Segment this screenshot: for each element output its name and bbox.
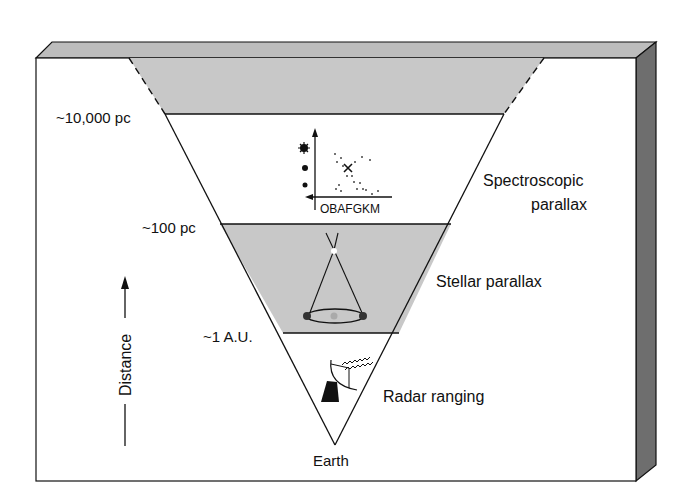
band-far [129, 58, 544, 114]
method-stellar-parallax: Stellar parallax [436, 273, 542, 290]
distance-axis-label: Distance [117, 334, 134, 396]
marker-100pc: ~100 pc [142, 219, 196, 236]
distance-ladder-diagram: ~10,000 pc ~100 pc ~1 A.U. Spectroscopic… [0, 0, 681, 497]
earth-label: Earth [313, 452, 349, 469]
marker-10000pc: ~10,000 pc [56, 109, 131, 126]
star-medium-icon [302, 165, 308, 171]
method-spectroscopic-line1: Spectroscopic [483, 172, 584, 189]
method-radar-ranging: Radar ranging [383, 388, 484, 405]
spectral-class-label: OBAFGKM [320, 202, 380, 216]
box-top-bevel [36, 42, 656, 58]
marker-1au: ~1 A.U. [203, 328, 253, 345]
star-dim-icon [303, 183, 308, 188]
method-spectroscopic-line2: parallax [531, 196, 587, 213]
box-side-bevel [636, 42, 656, 481]
